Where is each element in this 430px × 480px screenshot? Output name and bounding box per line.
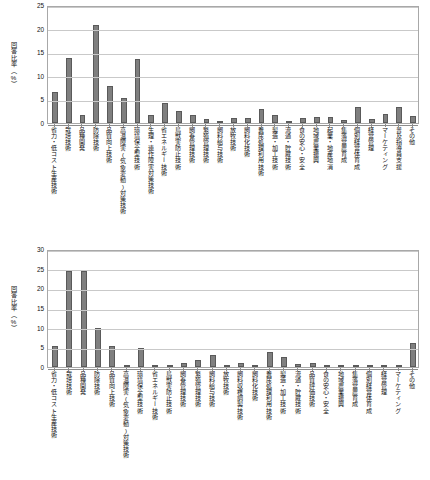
x-tick-label: 経営管理: [380, 371, 386, 395]
y-tick-label: 20: [37, 26, 44, 32]
bar: [190, 115, 196, 123]
x-tick-label: 飼養管理技術: [180, 371, 186, 408]
bar: [52, 92, 58, 123]
x-tick-label: 鳥獣害防止技術: [165, 371, 171, 414]
bar: [286, 121, 292, 123]
bar: [310, 363, 316, 367]
chart-bottom: 回答比率（%） 051015202530 省力・低コスト生産技術栽培技術品種開発…: [0, 250, 430, 480]
y-axis-title-text: 回答比率（%）: [10, 286, 16, 332]
bar: [181, 363, 187, 367]
x-tick-label: 品質向上技術: [106, 127, 112, 164]
bar: [355, 107, 361, 123]
x-tick-label: 品質評価技術: [308, 371, 314, 408]
bar: [396, 365, 402, 367]
chart-top: 回答比率（%） 0510152025 省力・低コスト生産技術栽培技術品種開発防除…: [0, 6, 430, 242]
x-tick-label: 高温障害(気象変動)対策技術: [119, 127, 125, 214]
bar: [369, 119, 375, 123]
bar: [245, 118, 251, 123]
x-tick-label: 飼料給与技術: [208, 371, 214, 408]
x-tick-label: その他: [408, 371, 414, 389]
x-tick-label: 地域農業振興: [312, 127, 318, 164]
x-tick-label: 個別経営体育成: [354, 127, 360, 170]
bar: [367, 365, 373, 367]
gridline: [48, 251, 418, 252]
bar: [300, 118, 306, 123]
gridline: [48, 329, 418, 330]
x-tick-label: 糞尿処理利用技術: [257, 127, 263, 176]
x-tick-label: 生理・連作障害対策技術: [147, 127, 153, 194]
bar: [152, 365, 158, 367]
bar: [295, 364, 301, 367]
bar: [124, 365, 130, 367]
gridline: [48, 101, 418, 102]
y-tick-label: 5: [40, 97, 44, 103]
bar: [148, 115, 154, 123]
bar-series-top: [48, 7, 418, 123]
bar: [167, 365, 173, 367]
bar: [204, 119, 210, 123]
x-tick-label: 個別経営体育成: [366, 371, 372, 414]
bar: [138, 348, 144, 367]
x-tick-label: 省エネルギー技術: [161, 127, 167, 176]
bar: [272, 115, 278, 123]
x-tick-label: 栽培技術: [65, 371, 71, 395]
bar: [107, 86, 113, 123]
y-tick-label: 25: [37, 3, 44, 9]
bar: [383, 114, 389, 123]
x-tick-label: 飼料化技術: [251, 371, 257, 402]
y-tick-label: 10: [37, 74, 44, 80]
x-tick-label: 飼料化技術: [243, 127, 249, 158]
x-tick-label: 飼料収穫調製技術: [237, 371, 243, 420]
x-tick-label: 繁殖管理技術: [202, 127, 208, 164]
x-tick-label: マーケティング: [394, 371, 400, 414]
x-tick-label: 地域農業振興: [337, 371, 343, 408]
x-tick-label: 省エネルギー技術: [151, 371, 157, 420]
bar: [66, 271, 72, 367]
x-tick-label: 栽培技術: [64, 127, 70, 151]
bar: [338, 365, 344, 367]
x-tick-label: 普及指導員支援: [395, 127, 401, 170]
x-tick-label: 製造・加工技術: [280, 371, 286, 414]
y-tick-label: 0: [40, 365, 44, 371]
bar: [341, 120, 347, 123]
x-tick-label: 食の安心・安全: [298, 127, 304, 170]
x-tick-label: 鳥獣害防止技術: [174, 127, 180, 170]
bar: [195, 360, 201, 367]
bar: [176, 111, 182, 123]
gridline: [48, 349, 418, 350]
y-tick-label: 15: [37, 306, 44, 312]
bar: [66, 58, 72, 123]
figure-page: 回答比率（%） 0510152025 省力・低コスト生産技術栽培技術品種開発防除…: [0, 0, 430, 480]
plot-area-top: [47, 6, 419, 124]
bar: [210, 355, 216, 367]
bar: [252, 365, 258, 367]
bar: [93, 25, 99, 123]
bar: [135, 59, 141, 123]
y-tick-label: 15: [37, 50, 44, 56]
gridline: [48, 30, 418, 31]
x-tick-label: 集落営農育成: [340, 127, 346, 164]
y-tick-label: 10: [37, 325, 44, 331]
gridline: [48, 310, 418, 311]
x-tick-label: 品種開発: [79, 371, 85, 395]
bar: [381, 365, 387, 367]
bar: [281, 357, 287, 367]
x-tick-label: 放牧技術: [230, 127, 236, 151]
x-tick-label: 糞尿処理利用技術: [265, 371, 271, 420]
x-tick-label: 品質向上技術: [108, 371, 114, 408]
x-tick-label: 環境保全型技術: [133, 127, 139, 170]
bar: [80, 115, 86, 123]
gridline: [48, 77, 418, 78]
y-axis-title-bottom: 回答比率（%）: [2, 250, 24, 368]
x-tick-label: 繁殖管理技術: [194, 371, 200, 408]
bar: [314, 117, 320, 123]
x-tick-label: 省力・低コスト生産技術: [51, 371, 57, 438]
x-tick-label: 飼養管理技術: [188, 127, 194, 164]
x-tick-label: 放牧技術: [222, 371, 228, 395]
x-tick-label: マーケティング: [381, 127, 387, 170]
bar: [410, 116, 416, 123]
y-tick-label: 25: [37, 266, 44, 272]
x-tick-label: 集落営農育成: [351, 371, 357, 408]
x-tick-label: その他: [409, 127, 415, 145]
gridline: [48, 290, 418, 291]
